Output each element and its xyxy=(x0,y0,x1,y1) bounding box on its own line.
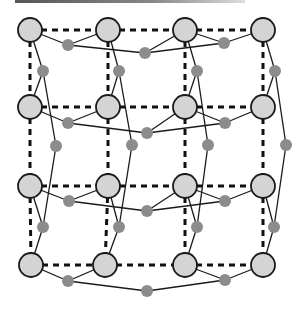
small-node xyxy=(219,117,231,129)
large-node xyxy=(19,253,43,277)
large-node xyxy=(251,95,275,119)
small-node xyxy=(62,117,74,129)
diagram-canvas xyxy=(0,0,307,314)
small-node xyxy=(202,139,214,151)
small-node xyxy=(141,205,153,217)
small-node xyxy=(126,139,138,151)
large-node xyxy=(173,253,197,277)
solid-edge xyxy=(275,71,286,145)
small-node xyxy=(37,65,49,77)
large-node xyxy=(251,253,275,277)
large-node xyxy=(18,174,42,198)
small-node xyxy=(50,140,62,152)
large-node xyxy=(18,18,42,42)
small-node xyxy=(62,275,74,287)
dashed-edges xyxy=(30,30,263,265)
small-node xyxy=(62,39,74,51)
large-node xyxy=(96,95,120,119)
large-node xyxy=(251,174,275,198)
small-node xyxy=(268,221,280,233)
small-node xyxy=(269,65,281,77)
small-node xyxy=(37,221,49,233)
small-node xyxy=(280,139,292,151)
small-node xyxy=(113,65,125,77)
large-node xyxy=(173,18,197,42)
small-node xyxy=(141,127,153,139)
solid-edges xyxy=(30,30,286,291)
small-node xyxy=(218,37,230,49)
large-node xyxy=(173,95,197,119)
large-node xyxy=(96,18,120,42)
small-node xyxy=(219,274,231,286)
large-node xyxy=(96,174,120,198)
small-node xyxy=(191,221,203,233)
small-node xyxy=(113,221,125,233)
small-node xyxy=(191,65,203,77)
small-node xyxy=(141,285,153,297)
large-node xyxy=(251,18,275,42)
small-node xyxy=(219,195,231,207)
solid-edge xyxy=(147,280,225,291)
large-node xyxy=(93,253,117,277)
large-node xyxy=(173,174,197,198)
grid-graph xyxy=(0,0,307,314)
small-node xyxy=(63,195,75,207)
large-node xyxy=(18,95,42,119)
small-node xyxy=(139,47,151,59)
solid-edge xyxy=(68,281,147,291)
